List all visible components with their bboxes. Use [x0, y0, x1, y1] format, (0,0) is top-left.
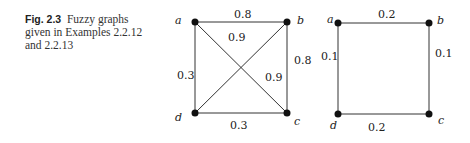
node2-c	[426, 111, 433, 118]
node2-b	[426, 20, 433, 27]
node-label-b: b	[297, 14, 304, 27]
edge-weight-a-b: 0.8	[234, 8, 252, 21]
edge2-weight-d-a: 0.1	[321, 50, 339, 63]
node2-label-d: d	[330, 119, 337, 132]
edge-weight-d-a: 0.3	[177, 69, 195, 82]
edge2-weight-a-b: 0.2	[378, 8, 396, 21]
node-label-c: c	[294, 115, 300, 128]
node2-d	[335, 111, 342, 118]
fuzzy-graph-2	[338, 23, 429, 114]
graph-2-nodes	[335, 20, 433, 118]
figure-graphs: a b c d 0.8 0.8 0.3 0.3 0.9 0.9 a b c d …	[0, 0, 470, 143]
edge2-weight-c-d: 0.2	[368, 121, 386, 134]
node2-a	[335, 20, 342, 27]
edge-weight-b-c: 0.8	[294, 54, 312, 67]
node-label-d: d	[175, 111, 182, 124]
node-a	[192, 19, 199, 26]
node-b	[284, 19, 291, 26]
node-c	[284, 110, 291, 117]
edge-weight-b-d: 0.9	[228, 31, 246, 44]
edge-weight-c-d: 0.3	[230, 119, 248, 132]
node2-label-c: c	[438, 114, 444, 127]
node-d	[192, 110, 199, 117]
edge2-weight-b-c: 0.1	[435, 47, 453, 60]
edge-weight-a-c: 0.9	[265, 71, 283, 84]
node-label-a: a	[175, 14, 182, 27]
node2-label-a: a	[327, 13, 334, 26]
node2-label-b: b	[437, 14, 444, 27]
